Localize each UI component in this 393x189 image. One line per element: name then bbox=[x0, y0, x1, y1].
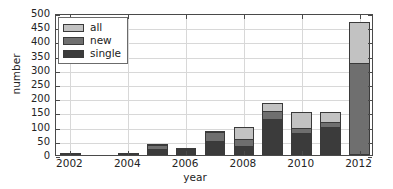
y-tick-mark bbox=[56, 143, 60, 144]
y-tick-mark bbox=[56, 15, 60, 16]
bar-segment-single bbox=[147, 149, 168, 155]
bar-group bbox=[176, 13, 197, 155]
x-tick-mark bbox=[302, 151, 303, 155]
x-tick-label: 2002 bbox=[39, 158, 99, 169]
y-tick-mark-right bbox=[368, 114, 372, 115]
x-tick-label: 2008 bbox=[213, 158, 273, 169]
x-tick-mark-top bbox=[186, 15, 187, 19]
legend-swatch-icon bbox=[63, 24, 84, 32]
y-tick-label: 150 bbox=[8, 108, 50, 118]
legend-item: all bbox=[63, 21, 121, 34]
x-tick-label: 2006 bbox=[155, 158, 215, 169]
chart-legend: allnewsingle bbox=[58, 17, 128, 64]
x-tick-mark bbox=[128, 151, 129, 155]
bar-group bbox=[234, 13, 255, 155]
y-tick-label: 400 bbox=[8, 37, 50, 47]
bar-group bbox=[262, 13, 283, 155]
y-tick-mark-right bbox=[368, 15, 372, 16]
y-tick-label: 500 bbox=[8, 9, 50, 19]
bar-group bbox=[147, 13, 168, 155]
y-tick-label: 350 bbox=[8, 52, 50, 62]
y-tick-mark-right bbox=[368, 129, 372, 130]
bar-segment-single bbox=[205, 141, 226, 155]
y-tick-mark bbox=[56, 129, 60, 130]
x-tick-mark-top bbox=[128, 15, 129, 19]
y-tick-mark-right bbox=[368, 143, 372, 144]
legend-swatch-icon bbox=[63, 37, 84, 45]
y-tick-mark bbox=[56, 114, 60, 115]
y-tick-mark-right bbox=[368, 43, 372, 44]
x-tick-mark-top bbox=[360, 15, 361, 19]
x-tick-mark bbox=[186, 151, 187, 155]
x-tick-label: 2012 bbox=[329, 158, 389, 169]
bar-group bbox=[291, 13, 312, 155]
legend-label: all bbox=[90, 22, 102, 33]
y-tick-mark-right bbox=[368, 157, 372, 158]
y-tick-mark-right bbox=[368, 86, 372, 87]
bar-group bbox=[320, 13, 341, 155]
x-tick-mark bbox=[360, 151, 361, 155]
x-tick-mark bbox=[244, 151, 245, 155]
bar-segment-single bbox=[320, 127, 341, 155]
y-tick-mark bbox=[56, 157, 60, 158]
y-tick-label: 200 bbox=[8, 94, 50, 104]
y-tick-mark bbox=[56, 86, 60, 87]
x-tick-label: 2004 bbox=[97, 158, 157, 169]
bar-segment-single bbox=[262, 119, 283, 155]
bar-group bbox=[349, 13, 370, 155]
y-tick-mark-right bbox=[368, 100, 372, 101]
y-tick-mark-right bbox=[368, 58, 372, 59]
legend-item: single bbox=[63, 47, 121, 60]
y-tick-label: 300 bbox=[8, 66, 50, 76]
x-tick-mark bbox=[70, 151, 71, 155]
x-tick-label: 2010 bbox=[271, 158, 331, 169]
bar-group bbox=[205, 13, 226, 155]
x-axis-title: year bbox=[155, 171, 235, 183]
legend-swatch-icon bbox=[63, 50, 84, 58]
legend-item: new bbox=[63, 34, 121, 47]
y-tick-mark bbox=[56, 100, 60, 101]
x-tick-mark-top bbox=[244, 15, 245, 19]
y-tick-mark-right bbox=[368, 72, 372, 73]
y-tick-label: 250 bbox=[8, 80, 50, 90]
y-tick-mark bbox=[56, 72, 60, 73]
y-tick-label: 50 bbox=[8, 137, 50, 147]
x-tick-mark-top bbox=[302, 15, 303, 19]
y-tick-mark-right bbox=[368, 29, 372, 30]
legend-label: single bbox=[90, 48, 121, 59]
y-tick-label: 450 bbox=[8, 23, 50, 33]
chart-figure: number year 0501001502002503003504004505… bbox=[0, 0, 393, 189]
y-tick-label: 100 bbox=[8, 123, 50, 133]
bar-segment-new bbox=[349, 63, 370, 155]
legend-label: new bbox=[90, 35, 112, 46]
